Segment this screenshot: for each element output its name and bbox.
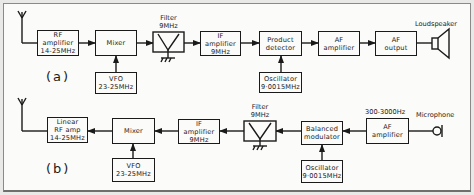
af-amp-line2: amplifier [323, 44, 354, 52]
rf-amp-line3: 14-25MHz [41, 47, 76, 55]
pd-line2: detector [266, 44, 295, 52]
if-amp-line1: IF [217, 32, 223, 40]
product-detector-block: Product detector [259, 31, 302, 56]
filter-icon [244, 121, 276, 150]
panel-label-b: (b) [46, 161, 70, 176]
vfo-line2: 23-25MHz [99, 83, 134, 91]
osc-line2: 9·0015MHz [261, 83, 300, 91]
bm-line2: modulator [304, 133, 340, 141]
filter-icon [153, 32, 184, 62]
if-amplifier-block: IF amplifier 9MHz [178, 119, 220, 144]
microphone-icon [433, 125, 442, 137]
filter-label-line1: Filter [244, 103, 276, 111]
mixer-block: Mixer [112, 118, 155, 144]
if-amp-line2: amplifier [183, 128, 214, 136]
mixer-label: Mixer [124, 127, 143, 135]
mixer-block: Mixer [95, 30, 137, 56]
if-amp-line2: amplifier [205, 40, 236, 48]
if-amp-line3: 9MHz [211, 48, 230, 56]
osc-line2: 9·0015MHz [303, 172, 342, 180]
af-amplifier-block: AF amplifier [366, 118, 409, 144]
filter-label-line2: 9MHz [244, 111, 276, 119]
filter-label: Filter 9MHz [153, 14, 184, 30]
lin-rf-line1: Linear [57, 118, 79, 126]
af-amp-line1: AF [335, 36, 344, 44]
af-amp-line1: AF [383, 123, 392, 131]
vfo-line1: VFO [126, 162, 140, 170]
linear-rf-amp-block: Linear RF amp 14-25MHz [47, 117, 88, 143]
lin-rf-line3: 14-25MHz [50, 134, 85, 142]
osc-line1: Oscillator [305, 164, 338, 172]
panel-label-a: (a) [46, 69, 70, 84]
if-amp-line3: 9MHz [189, 136, 208, 144]
af-amp-line2: amplifier [372, 131, 403, 139]
pd-line1: Product [267, 36, 293, 44]
oscillator-block: Oscillator 9·0015MHz [301, 160, 343, 183]
loudspeaker-label: Loudspeaker [415, 20, 457, 28]
vfo-line1: VFO [109, 75, 123, 83]
if-amp-line1: IF [196, 120, 202, 128]
rf-amplifier-block: RF amplifier 14-25MHz [37, 30, 79, 56]
rf-amp-line2: amplifier [42, 39, 73, 47]
microphone-label: Microphone [416, 111, 454, 119]
af-output-block: AF output [375, 31, 417, 56]
af-out-line1: AF [392, 36, 401, 44]
af-out-line2: output [385, 44, 408, 52]
mixer-label: Mixer [107, 39, 126, 47]
filter-label-line1: Filter [153, 14, 184, 22]
af-range-label: 300-3000Hz [365, 108, 405, 116]
filter-label-line2: 9MHz [153, 22, 184, 30]
antenna-icon [18, 98, 47, 131]
filter-label: Filter 9MHz [244, 103, 276, 119]
af-amplifier-block: AF amplifier [318, 31, 360, 56]
if-amplifier-block: IF amplifier 9MHz [200, 31, 241, 56]
osc-line1: Oscillator [264, 75, 297, 83]
antenna-icon [18, 11, 37, 43]
vfo-block: VFO 23-25MHz [112, 158, 155, 182]
vfo-block: VFO 23-25MHz [95, 72, 137, 94]
vfo-line2: 23-25MHz [116, 170, 151, 178]
lin-rf-line2: RF amp [54, 126, 80, 134]
bm-line1: Balanced [306, 125, 338, 133]
oscillator-block: Oscillator 9·0015MHz [259, 72, 302, 93]
loudspeaker-icon [432, 29, 449, 58]
rf-amp-line1: RF [54, 31, 63, 39]
balanced-modulator-block: Balanced modulator [301, 121, 343, 145]
